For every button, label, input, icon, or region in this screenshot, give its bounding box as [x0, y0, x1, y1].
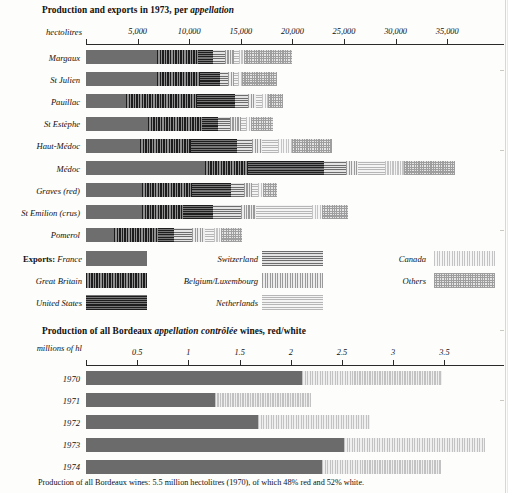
appellation-bar: [86, 94, 283, 108]
bar-segment-white: [215, 393, 311, 407]
bar-segment-belgium-luxembourg: [241, 205, 256, 219]
bar-segment-great-britain: [157, 72, 199, 86]
appellation-bar: [86, 183, 277, 197]
bar-segment-great-britain: [126, 94, 197, 108]
axis-tick-label: 25,000: [333, 27, 356, 36]
bar-segment-red: [86, 371, 302, 385]
bar-segment-france: [86, 228, 114, 242]
page-edge-rule: [505, 0, 506, 493]
bar-segment-netherlands: [262, 139, 277, 153]
legend-swatch-netherlands: [262, 295, 323, 310]
bar-segment-united-states: [192, 183, 231, 197]
axis-tick-label: 15,000: [229, 27, 252, 36]
bar-segment-great-britain: [157, 50, 198, 64]
axis-tick-label: 3: [391, 348, 395, 357]
bar-segment-switzerland: [220, 72, 228, 86]
bar-segment-france: [86, 94, 126, 108]
bar-segment-belgium-luxembourg: [225, 50, 233, 64]
axis-tick-label: 0.5: [132, 348, 142, 357]
year-row-label: 1973: [0, 440, 80, 450]
bottom-axis-unit-label: millions of hl: [14, 343, 82, 353]
bar-segment-united-states: [197, 94, 234, 108]
axis-tick: [291, 360, 292, 365]
top-axis-unit-label: hectolitres: [20, 27, 82, 37]
appellation-row-label: Pomerol: [0, 230, 80, 240]
bar-segment-united-states: [200, 72, 221, 86]
axis-tick: [240, 360, 241, 365]
top-chart-title-plain: Production and exports in 1973, per: [42, 5, 190, 15]
bar-segment-belgium-luxembourg: [346, 161, 358, 175]
bar-segment-switzerland: [237, 139, 252, 153]
bar-segment-red: [86, 393, 215, 407]
bar-segment-netherlands: [358, 161, 385, 175]
bar-segment-others: [251, 117, 273, 131]
bar-segment-france: [86, 161, 205, 175]
appellation-row-label: St Emilion (crus): [0, 208, 80, 218]
legend-swatch-others: [434, 273, 495, 288]
bar-segment-great-britain: [140, 139, 192, 153]
axis-tick: [444, 360, 445, 365]
year-bar: [86, 371, 442, 385]
axis-line: [86, 365, 504, 366]
axis-tick: [342, 360, 343, 365]
axis-tick: [137, 360, 138, 365]
footnote: Production of all Bordeaux wines: 5.5 mi…: [38, 478, 364, 487]
bar-segment-others: [221, 228, 242, 242]
legend-label-netherlands: Netherlands: [0, 298, 258, 308]
bar-segment-switzerland: [213, 205, 241, 219]
bar-segment-great-britain: [148, 117, 202, 131]
page-edge-tick: [500, 150, 504, 151]
axis-tick-label: 5,000: [128, 27, 147, 36]
bar-segment-canada: [214, 228, 221, 242]
page-edge-tick: [500, 230, 504, 231]
bar-segment-switzerland: [218, 117, 230, 131]
axis-tick: [188, 360, 189, 365]
top-chart-title: Production and exports in 1973, per appe…: [42, 5, 234, 15]
axis-tick: [447, 39, 448, 44]
bar-segment-united-states: [202, 117, 219, 131]
bar-segment-switzerland: [324, 161, 346, 175]
bar-segment-belgium-luxembourg: [252, 139, 262, 153]
bar-segment-red: [86, 415, 258, 429]
bar-segment-switzerland: [235, 94, 248, 108]
appellation-bar: [86, 139, 332, 153]
bar-segment-belgium-luxembourg: [230, 117, 240, 131]
appellation-bar: [86, 72, 277, 86]
bar-segment-united-states: [198, 50, 212, 64]
bar-segment-great-britain: [114, 228, 158, 242]
bar-segment-belgium-luxembourg: [248, 94, 256, 108]
appellation-row-label: Médoc: [0, 164, 80, 174]
year-bar: [86, 393, 311, 407]
year-bar: [86, 438, 485, 452]
bar-segment-white: [344, 438, 485, 452]
axis-tick-label: 30,000: [384, 27, 407, 36]
bar-segment-canada: [278, 139, 292, 153]
bar-segment-netherlands: [256, 205, 312, 219]
axis-tick-label: 1: [186, 348, 190, 357]
axis-tick: [138, 39, 139, 44]
legend-label-others: Others: [0, 276, 426, 286]
bar-segment-france: [86, 183, 142, 197]
bar-segment-great-britain: [142, 183, 193, 197]
year-row-label: 1970: [0, 374, 80, 384]
bottom-chart-title-a: Production of all Bordeaux: [42, 326, 155, 336]
bar-segment-belgium-luxembourg: [244, 183, 252, 197]
year-bar: [86, 460, 441, 474]
bar-segment-white: [258, 415, 370, 429]
appellation-bar: [86, 205, 348, 219]
bar-segment-red: [86, 438, 344, 452]
bar-segment-france: [86, 50, 157, 64]
axis-tick-label: 10,000: [178, 27, 201, 36]
bar-segment-united-states: [191, 139, 236, 153]
bar-segment-switzerland: [213, 50, 225, 64]
bar-segment-france: [86, 205, 142, 219]
bar-segment-united-states: [248, 161, 324, 175]
year-row-label: 1971: [0, 396, 80, 406]
bar-segment-red: [86, 460, 322, 474]
year-bar: [86, 415, 370, 429]
bar-segment-canada: [312, 205, 322, 219]
bar-segment-others: [263, 183, 276, 197]
axis-tick: [292, 39, 293, 44]
axis-tick: [344, 39, 345, 44]
axis-tick: [393, 360, 394, 365]
